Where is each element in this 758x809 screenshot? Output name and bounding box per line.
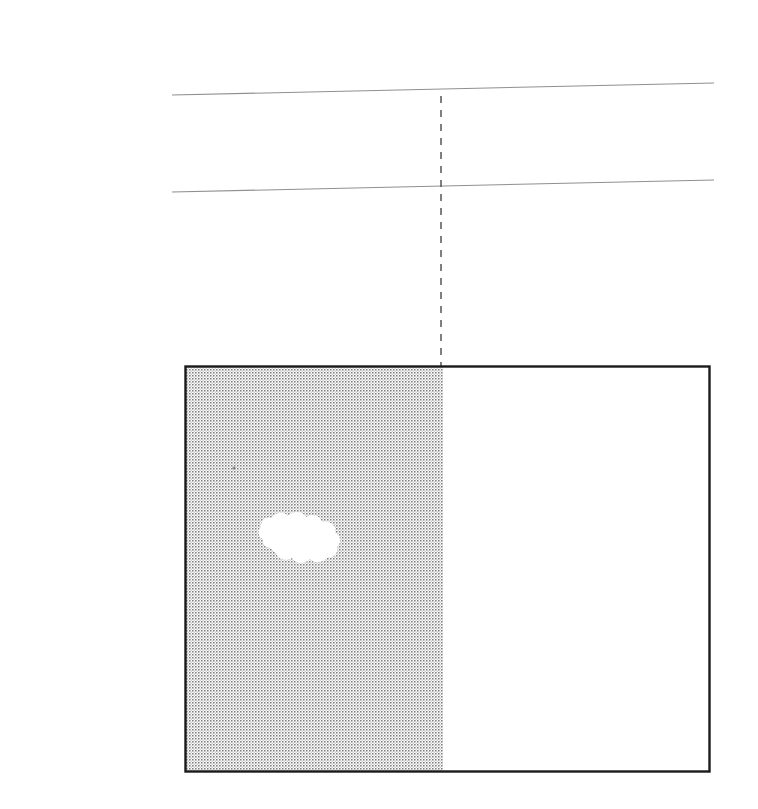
scan-speck xyxy=(233,467,236,470)
hue-baseline xyxy=(172,180,714,192)
color-patch-blue-region xyxy=(443,367,709,771)
figure-drawing-layer xyxy=(0,0,758,809)
hue-phase-resultant-waveform xyxy=(172,180,714,192)
subcarrier-reference-waveform xyxy=(172,83,714,95)
hue-color-patch xyxy=(186,367,710,772)
subcarrier-baseline xyxy=(172,83,714,95)
color-patch-yellow-region xyxy=(186,367,443,771)
subcarrier-phase-hue-figure xyxy=(0,0,758,809)
